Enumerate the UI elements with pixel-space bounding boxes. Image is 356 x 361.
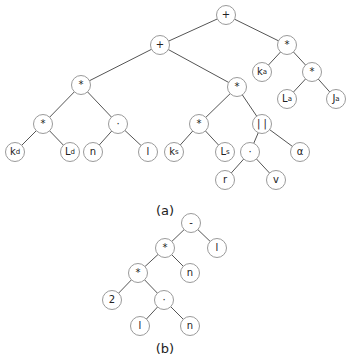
tree-node: * <box>277 35 297 55</box>
tree-node: | | <box>252 114 272 134</box>
node-label: * <box>136 268 141 278</box>
tree-node: l <box>130 316 150 336</box>
tree-edge <box>160 45 237 87</box>
node-label: n <box>90 147 96 157</box>
node-label: * <box>197 119 202 129</box>
node-subscript: s <box>226 149 230 156</box>
tree-node: · <box>240 142 260 162</box>
node-subscript: d <box>71 149 75 156</box>
node-label: + <box>156 40 164 50</box>
node-label: * <box>41 119 46 129</box>
node-label: + <box>222 10 230 20</box>
tree-node: + <box>150 35 170 55</box>
node-label: α <box>297 147 304 157</box>
node-subscript: a <box>288 96 292 103</box>
node-label: l <box>147 147 150 157</box>
tree-node: v <box>266 170 286 190</box>
node-subscript: a <box>263 69 267 76</box>
tree-node: * <box>33 114 53 134</box>
node-label: · <box>248 147 251 157</box>
node-label: 2 <box>109 295 115 305</box>
tree-node: n <box>83 142 103 162</box>
tree-node: ks <box>164 142 184 162</box>
node-label: v <box>273 175 279 185</box>
node-label: l <box>139 321 142 331</box>
tree-node: Ld <box>60 142 80 162</box>
caption-a: (a) <box>156 203 174 218</box>
tree-node: * <box>155 238 175 258</box>
node-subscript: s <box>175 149 179 156</box>
node-label: - <box>189 218 193 228</box>
tree-node: * <box>128 263 148 283</box>
node-label: n <box>187 268 193 278</box>
tree-node: kd <box>5 142 25 162</box>
tree-node: r <box>215 170 235 190</box>
tree-node: Ls <box>215 142 235 162</box>
tree-node: La <box>277 89 297 109</box>
node-label: r <box>223 175 227 185</box>
tree-node: n <box>180 316 200 336</box>
tree-edges <box>0 0 356 361</box>
tree-node: * <box>227 77 247 97</box>
caption-b: (b) <box>156 341 174 356</box>
node-subscript: a <box>335 96 339 103</box>
tree-node: · <box>154 290 174 310</box>
tree-node: ka <box>252 62 272 82</box>
tree-node: · <box>108 114 128 134</box>
tree-node: * <box>71 75 91 95</box>
tree-node: Ja <box>326 89 346 109</box>
tree-node: α <box>290 142 310 162</box>
node-label: * <box>235 82 240 92</box>
node-label: n <box>187 321 193 331</box>
node-subscript: d <box>16 149 20 156</box>
node-label: · <box>162 295 165 305</box>
expression-tree-figure: ++*ka*LaJa***·kdLdnl*| |ksLs·αrv-*l*n2·l… <box>0 0 356 361</box>
node-label: · <box>116 119 119 129</box>
tree-node: 2 <box>102 290 122 310</box>
tree-node: * <box>302 62 322 82</box>
tree-node: l <box>138 142 158 162</box>
tree-node: + <box>216 5 236 25</box>
node-label: * <box>310 67 315 77</box>
node-label: * <box>79 80 84 90</box>
node-label: * <box>285 40 290 50</box>
node-label: l <box>216 243 219 253</box>
tree-edge <box>81 45 160 85</box>
tree-node: - <box>181 213 201 233</box>
node-label: * <box>163 243 168 253</box>
node-label: | | <box>257 119 267 129</box>
tree-node: n <box>180 263 200 283</box>
tree-node: l <box>207 238 227 258</box>
tree-node: * <box>189 114 209 134</box>
